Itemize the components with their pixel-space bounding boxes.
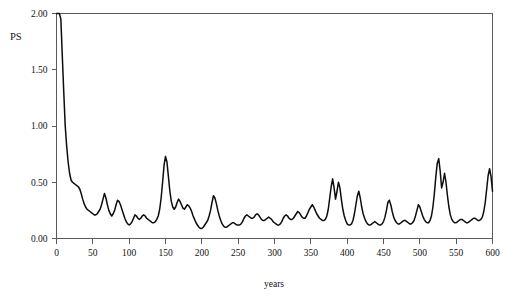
chart-figure: 050100150200250300350400450500550600 0.0… (0, 0, 515, 299)
x-tick-label: 250 (231, 248, 246, 258)
y-tick-label: 1.50 (31, 65, 48, 75)
x-tick-label: 500 (413, 248, 428, 258)
x-tick-label: 450 (376, 248, 391, 258)
y-axis-label: PS (10, 31, 22, 42)
x-tick-label: 400 (340, 248, 355, 258)
ps-years-line-chart: 050100150200250300350400450500550600 0.0… (0, 0, 515, 299)
chart-background (0, 0, 515, 299)
x-tick-label: 50 (88, 248, 98, 258)
y-tick-label: 0.50 (31, 178, 48, 188)
x-tick-label: 200 (195, 248, 210, 258)
x-tick-label: 100 (122, 248, 137, 258)
x-tick-label: 300 (267, 248, 282, 258)
y-tick-label: 0.00 (31, 234, 48, 244)
y-tick-label: 1.00 (31, 121, 48, 131)
x-tick-label: 0 (54, 248, 59, 258)
x-tick-label: 350 (304, 248, 319, 258)
x-axis-title: years (264, 279, 284, 289)
x-tick-label: 150 (158, 248, 173, 258)
x-tick-label: 600 (485, 248, 500, 258)
x-tick-label: 550 (449, 248, 464, 258)
y-tick-label: 2.00 (31, 9, 48, 19)
